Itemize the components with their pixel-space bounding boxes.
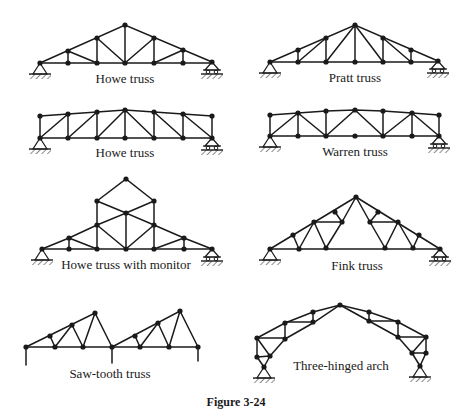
saw-tooth-truss — [26, 311, 198, 365]
label-saw-tooth-truss: Saw-tooth truss — [69, 366, 150, 382]
label-three-hinged-arch: Three-hinged arch — [293, 358, 389, 374]
label-howe-truss-with-monitor: Howe truss with monitor — [61, 257, 191, 273]
label-howe-truss-1: Howe truss — [96, 71, 155, 87]
howe-truss-1 — [40, 25, 212, 63]
label-pratt-truss: Pratt truss — [329, 70, 381, 86]
figure-caption: Figure 3-24 — [207, 395, 266, 410]
pratt-truss — [270, 25, 438, 62]
label-warren-truss: Warren truss — [322, 144, 388, 160]
label-fink-truss: Fink truss — [331, 258, 383, 274]
label-howe-truss-2: Howe truss — [96, 145, 155, 161]
fink-truss — [270, 197, 440, 249]
truss-diagram — [0, 0, 472, 418]
